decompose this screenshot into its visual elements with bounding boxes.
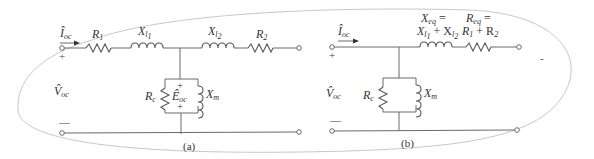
terminal-bottom-left-a (60, 131, 65, 136)
label-req-line2: R1 + R2 (461, 24, 498, 39)
label-rc-b: Rc (362, 88, 374, 103)
label-r2: R2 (255, 27, 267, 42)
resistor-rc-b (379, 87, 387, 109)
resistor-r2 (248, 44, 273, 52)
circuit-figure: Îoc + V̂oc — R1 Xl1 Xl2 R2 Rc Êoc + + Xm… (0, 0, 594, 159)
terminal-top-right-b (517, 45, 522, 50)
eoc-plus-bottom: + (177, 100, 183, 112)
current-label-a: Îoc (59, 26, 72, 41)
resistor-rc (161, 88, 169, 110)
voltage-label-a: V̂oc (54, 84, 69, 99)
plus-sign-a: + (59, 50, 65, 62)
stray-mark: - (540, 52, 544, 64)
resistor-r1 (86, 44, 111, 52)
label-xeq-line2: Xl1 + Xl2 (416, 24, 458, 41)
voltage-label-b: V̂oc (326, 86, 341, 101)
caption-a: (a) (183, 140, 196, 153)
inductor-xm (198, 86, 203, 118)
terminal-top-right-a (297, 46, 302, 51)
inductor-xl2 (202, 43, 234, 48)
minus-sign-b: — (329, 114, 342, 126)
label-xm-b: Xm (423, 86, 437, 101)
resistor-req (466, 43, 491, 51)
plus-sign-b: + (329, 49, 335, 61)
label-rc-a: Rc (144, 89, 156, 104)
caption-b: (b) (401, 137, 414, 150)
label-xl1: Xl1 (137, 24, 152, 41)
minus-sign-a: — (58, 116, 71, 128)
terminal-bottom-left-b (330, 129, 335, 134)
current-label-b: Îoc (337, 24, 350, 39)
inductor-xl1 (131, 43, 163, 48)
terminal-bottom-right-a (297, 130, 302, 135)
label-xm-a: Xm (205, 87, 219, 102)
eoc-plus-top: + (177, 79, 183, 91)
inductor-xeq (420, 42, 452, 47)
arrowhead-icon (353, 39, 359, 44)
label-r1: R1 (91, 27, 103, 42)
terminal-bottom-right-b (515, 128, 520, 133)
label-xl2: Xl2 (207, 24, 222, 41)
inductor-xm-b (416, 85, 421, 117)
